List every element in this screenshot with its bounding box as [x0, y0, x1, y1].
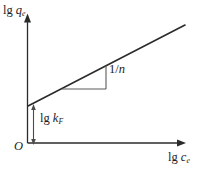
y-axis — [24, 14, 31, 144]
x-axis-label-subscript: e — [186, 156, 189, 165]
y-axis-label-subscript: e — [22, 9, 25, 18]
slope-label: 1/n — [109, 63, 125, 76]
y-axis-label: lg qe — [3, 4, 26, 18]
slope-label-text: 1/ — [109, 62, 119, 76]
intercept-label: lg kF — [40, 112, 63, 126]
origin-label: O — [14, 140, 23, 153]
x-axis — [28, 140, 187, 147]
intercept-label-prefix: lg — [40, 111, 50, 125]
intercept-arrow-up-icon — [31, 104, 36, 110]
x-axis-label: lg ce — [168, 151, 190, 165]
intercept-measure — [31, 104, 36, 145]
intercept-label-subscript: F — [58, 117, 63, 126]
y-axis-label-prefix: lg — [3, 3, 13, 17]
freundlich-isotherm-figure: lg qe lg ce 1/n lg kF O — [0, 0, 214, 171]
isotherm-line — [28, 25, 185, 106]
x-axis-arrow-icon — [177, 140, 186, 147]
slope-label-variable: n — [119, 62, 125, 76]
intercept-arrow-down-icon — [31, 139, 36, 145]
x-axis-label-prefix: lg — [168, 150, 178, 164]
plot-canvas — [0, 0, 214, 171]
